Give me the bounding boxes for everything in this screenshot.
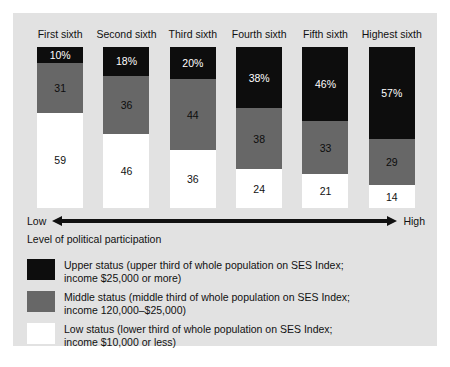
legend-swatch-low-status — [27, 323, 55, 344]
stacked-bar: 46% 33 21 — [302, 47, 348, 208]
bar-segment-upper: 20% — [170, 47, 216, 79]
chart-figure: First sixth Second sixth Third sixth Fou… — [13, 13, 437, 346]
bar-slot: 20% 44 36 — [160, 47, 226, 208]
legend-item-upper-status: Upper status (upper third of whole popul… — [27, 259, 425, 284]
stacked-bar: 18% 36 46 — [103, 47, 149, 208]
stacked-bar: 10% 31 59 — [37, 47, 83, 208]
legend-line-1: Low status (lower third of whole populat… — [64, 323, 333, 335]
bar-slot: 18% 36 46 — [93, 47, 159, 208]
bar-segment-low: 14 — [369, 185, 415, 208]
legend-line-1: Middle status (middle third of whole pop… — [64, 291, 350, 303]
arrow-shaft — [61, 219, 388, 223]
bar-segment-low: 59 — [37, 113, 83, 208]
axis-caption: Level of political participation — [27, 233, 161, 245]
bar-segment-middle: 38 — [236, 108, 282, 169]
stacked-bar: 57% 29 14 — [369, 47, 415, 208]
bar-slot: 38% 38 24 — [226, 47, 292, 208]
axis-label-low: Low — [27, 215, 46, 227]
participation-axis: Low High — [27, 212, 425, 230]
legend-line-2: income 120,000–$25,000) — [64, 304, 350, 317]
legend-line-2: income $10,000 or less) — [64, 336, 333, 349]
bar-segment-upper: 57% — [369, 47, 415, 139]
column-header: Highest sixth — [359, 26, 425, 42]
legend-item-low-status: Low status (lower third of whole populat… — [27, 323, 425, 348]
bar-segment-middle: 31 — [37, 63, 83, 113]
bar-segment-upper: 38% — [236, 47, 282, 108]
legend-item-middle-status: Middle status (middle third of whole pop… — [27, 291, 425, 316]
bar-segment-upper: 46% — [302, 47, 348, 121]
legend-swatch-middle-status — [27, 291, 55, 312]
bar-slot: 10% 31 59 — [27, 47, 93, 208]
bar-slot: 57% 29 14 — [359, 47, 425, 208]
double-arrow-icon — [52, 216, 397, 227]
bar-segment-upper: 18% — [103, 47, 149, 76]
column-header: Fifth sixth — [292, 26, 358, 42]
bar-segment-low: 21 — [302, 174, 348, 208]
legend-line-2: income $25,000 or more) — [64, 272, 344, 285]
bar-slot: 46% 33 21 — [292, 47, 358, 208]
legend: Upper status (upper third of whole popul… — [27, 259, 425, 355]
bar-segment-low: 24 — [236, 169, 282, 208]
bar-segment-low: 46 — [103, 134, 149, 208]
stacked-bar-plot: 10% 31 59 18% 36 46 20% 44 36 38% 38 24 — [27, 47, 425, 208]
bar-segment-middle: 44 — [170, 79, 216, 150]
column-header: Third sixth — [160, 26, 226, 42]
legend-label-upper-status: Upper status (upper third of whole popul… — [64, 259, 344, 284]
legend-label-middle-status: Middle status (middle third of whole pop… — [64, 291, 350, 316]
legend-label-low-status: Low status (lower third of whole populat… — [64, 323, 333, 348]
arrow-head-right-icon — [387, 216, 397, 226]
axis-label-high: High — [403, 215, 425, 227]
bar-segment-middle: 29 — [369, 139, 415, 186]
stacked-bar: 38% 38 24 — [236, 47, 282, 208]
legend-swatch-upper-status — [27, 259, 55, 280]
bar-segment-middle: 36 — [103, 76, 149, 134]
bar-segment-middle: 33 — [302, 121, 348, 174]
bar-segment-upper: 10% — [37, 47, 83, 63]
stacked-bar: 20% 44 36 — [170, 47, 216, 208]
bar-segment-low: 36 — [170, 150, 216, 208]
column-headers: First sixth Second sixth Third sixth Fou… — [27, 26, 425, 42]
legend-line-1: Upper status (upper third of whole popul… — [64, 259, 344, 271]
column-header: Fourth sixth — [226, 26, 292, 42]
column-header: First sixth — [27, 26, 93, 42]
column-header: Second sixth — [93, 26, 159, 42]
